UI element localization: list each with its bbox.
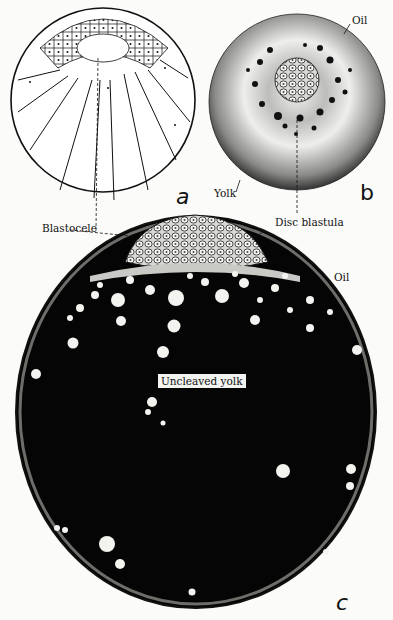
illustration-canvas (0, 0, 393, 620)
label-oil-b: Oil (352, 14, 367, 26)
label-blastocele: Blastocele (42, 222, 97, 234)
panel-letter-b: b (360, 180, 374, 205)
label-oil-c: Oil (334, 271, 349, 283)
panel-letter-a: a (176, 184, 189, 209)
panel-c-egg-section (16, 215, 376, 608)
label-disc-blastula: Disc blastula (275, 216, 344, 228)
panel-letter-c: c (336, 590, 348, 615)
panel-b-egg-top-view (209, 14, 385, 215)
panel-a-blastula-section (11, 8, 195, 230)
label-uncleaved-yolk: Uncleaved yolk (158, 374, 246, 388)
label-yolk-b: Yolk (214, 187, 236, 199)
